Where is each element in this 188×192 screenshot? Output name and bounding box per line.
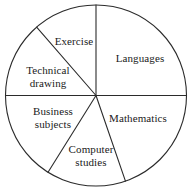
pie-slice-label: Exercise	[55, 35, 94, 48]
pie-slice-label-line: Mathematics	[109, 112, 167, 125]
pie-slice-label-line: subjects	[33, 117, 73, 130]
pie-slice-label: Technicaldrawing	[26, 64, 70, 89]
pie-slice-label-line: Business	[33, 105, 73, 118]
pie-slice-label-line: studies	[69, 155, 114, 168]
pie-chart: LanguagesMathematicsComputerstudiesBusin…	[0, 0, 188, 192]
pie-slice-label: Businesssubjects	[33, 105, 73, 130]
pie-slice-label-line: Languages	[116, 52, 165, 65]
pie-slice-label-line: Computer	[69, 143, 114, 156]
pie-slice-label-line: Exercise	[55, 35, 94, 48]
pie-slice-label-line: drawing	[26, 76, 70, 89]
pie-slice-label: Languages	[116, 52, 165, 65]
pie-slice-label: Computerstudies	[69, 143, 114, 168]
pie-slice-label: Mathematics	[109, 112, 167, 125]
pie-slice-label-line: Technical	[26, 64, 70, 77]
